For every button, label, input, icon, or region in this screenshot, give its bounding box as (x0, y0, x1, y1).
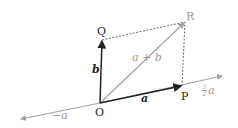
diagram-canvas (0, 0, 238, 128)
axis-label-neg-a: −a (52, 110, 68, 121)
vector-label-a: a (141, 93, 148, 104)
dashed-QR (102, 22, 185, 40)
fraction-variable: a (208, 84, 215, 97)
dashed-PR (182, 22, 185, 86)
point-label-R: R (186, 11, 194, 22)
vector-b (100, 41, 102, 103)
fraction: 3 2 (202, 84, 207, 97)
point-label-O: O (95, 107, 104, 118)
vector-label-b: b (92, 64, 100, 75)
point-label-P: P (181, 91, 188, 102)
vector-label-a-plus-b: a + b (132, 52, 162, 63)
fraction-denominator: 2 (203, 91, 207, 97)
axis-label-three-halves-a: 3 2 a (202, 84, 215, 97)
vector-diagram: Q R P O b a a + b −a 3 2 a (0, 0, 238, 128)
point-label-Q: Q (97, 26, 106, 37)
